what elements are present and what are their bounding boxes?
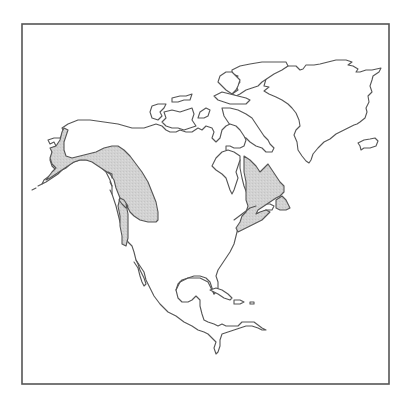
newfoundland [276,196,290,210]
north-america-map [0,0,411,408]
melville-island [172,94,192,102]
victoria-island [162,108,196,130]
prince-of-wales-island [198,108,210,118]
puerto-rico [250,302,254,304]
cuba [210,288,232,300]
aleutian-islands [32,184,42,190]
map-container [0,0,411,408]
hispaniola [234,300,244,304]
iceland [358,138,378,150]
